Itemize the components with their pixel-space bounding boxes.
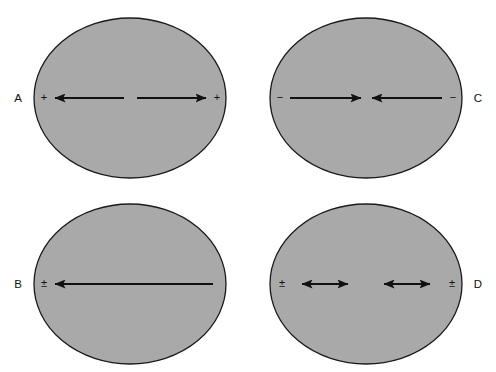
panel-b-label: B xyxy=(14,278,22,290)
panel-a: A + + xyxy=(14,18,226,178)
panel-c-right-sign: − xyxy=(450,91,456,103)
panel-d-label: D xyxy=(474,278,482,290)
panel-d-ellipse xyxy=(270,204,462,364)
diagram-figure: A + + C − − B ± D ± xyxy=(0,0,496,372)
diagram-canvas: A + + C − − B ± D ± xyxy=(0,0,496,372)
panel-c: C − − xyxy=(270,18,482,178)
panel-d-right-sign: ± xyxy=(449,277,455,289)
panel-b: B ± xyxy=(14,204,226,364)
panel-c-label: C xyxy=(474,92,482,104)
panel-c-left-sign: − xyxy=(277,91,283,103)
panel-b-left-sign: ± xyxy=(41,277,47,289)
panel-d-left-sign: ± xyxy=(279,277,285,289)
panel-a-left-sign: + xyxy=(41,91,47,103)
panel-d: D ± ± xyxy=(270,204,482,364)
panel-a-label: A xyxy=(14,92,22,104)
panel-a-right-sign: + xyxy=(214,91,220,103)
